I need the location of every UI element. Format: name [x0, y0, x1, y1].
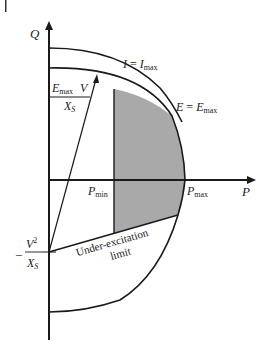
phasor-label-emax: Emax	[51, 81, 73, 96]
q-offset-den: XS	[26, 256, 38, 271]
q-offset-num: V2	[26, 236, 37, 251]
phasor-arrowhead-icon	[93, 74, 99, 83]
q-axis-label: Q	[30, 26, 40, 41]
q-axis-arrow-icon	[45, 21, 53, 30]
operating-region	[114, 89, 185, 233]
pmin-label: Pmin	[87, 184, 108, 199]
phasor-label-v: V	[80, 81, 89, 95]
excitation-limit-label: E=Emax	[175, 100, 217, 115]
p-axis-arrow-icon	[247, 176, 256, 184]
pmax-label: Pmax	[186, 184, 208, 199]
p-axis-label: P	[241, 184, 250, 199]
page-edge-mark	[5, 0, 7, 12]
capability-diagram: Emax V XS Q P – V2 XS I=Imax E=Emax Pmin…	[0, 0, 268, 350]
q-offset-minus: –	[15, 247, 23, 261]
phasor-label-xs: XS	[63, 99, 75, 114]
